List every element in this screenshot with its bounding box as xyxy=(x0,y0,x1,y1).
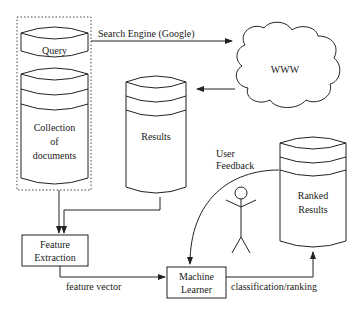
results-node: Results xyxy=(126,76,186,193)
fe-label-line1: Feature xyxy=(40,239,71,250)
feature-extraction-node: Feature Extraction xyxy=(22,235,88,266)
search-engine-edge: Search Engine (Google) xyxy=(91,28,232,41)
ml-label-line1: Machine xyxy=(179,271,215,282)
ranked-results-node: Ranked Results xyxy=(280,137,346,247)
collection-label-line3: documents xyxy=(33,150,76,161)
classification-label: classification/ranking xyxy=(231,281,317,292)
diagram-canvas: Query Collection of documents Search Eng… xyxy=(0,0,359,312)
results-to-fe-edge xyxy=(64,197,160,233)
feature-vector-label: feature vector xyxy=(66,281,122,292)
www-label: WWW xyxy=(271,64,300,75)
classification-edge: classification/ranking xyxy=(226,252,317,292)
ranked-label-line2: Results xyxy=(298,204,328,215)
search-engine-label: Search Engine (Google) xyxy=(98,28,195,40)
collection-label-line2: of xyxy=(50,136,59,147)
collection-node: Collection of documents xyxy=(21,68,88,184)
user-stick-figure-icon xyxy=(226,187,256,253)
query-node: Query xyxy=(21,27,88,57)
fe-label-line2: Extraction xyxy=(34,252,76,263)
ml-label-line2: Learner xyxy=(181,284,213,295)
www-cloud-node: WWW xyxy=(236,22,339,107)
collection-label-line1: Collection xyxy=(34,122,76,133)
query-label: Query xyxy=(42,45,67,56)
feature-vector-edge: feature vector xyxy=(60,266,165,292)
user-feedback-label-line2: Feedback xyxy=(216,160,254,171)
results-label: Results xyxy=(141,131,171,142)
user-feedback-edge: User Feedback xyxy=(190,148,279,264)
machine-learner-node: Machine Learner xyxy=(167,267,226,298)
ranked-label-line1: Ranked xyxy=(298,190,329,201)
user-feedback-label-line1: User xyxy=(216,148,236,159)
